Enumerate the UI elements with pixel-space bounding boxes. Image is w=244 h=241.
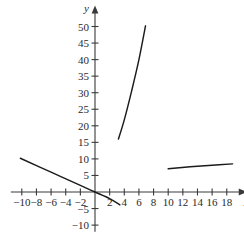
x-tick-label: 16 (207, 196, 219, 208)
y-tick-label: −5 (77, 203, 89, 215)
y-tick-label: 10 (78, 153, 90, 165)
y-tick-label: 25 (78, 103, 90, 115)
y-tick-label: 50 (78, 21, 90, 33)
y-tick-label: 30 (78, 87, 90, 99)
curve-steep-middle-branch (118, 26, 145, 139)
y-tick-label: 45 (78, 37, 90, 49)
graph-figure: −10−8−6−4−224681012141618 −10−5510152025… (0, 0, 244, 241)
x-tick-label: −4 (60, 196, 72, 208)
y-axis-arrow-icon (92, 6, 99, 14)
x-tick-label: 18 (221, 196, 233, 208)
y-tick-label: −10 (72, 219, 90, 231)
x-tick-label: 12 (177, 196, 188, 208)
y-tick-label: 15 (78, 136, 90, 148)
cartesian-plot: −10−8−6−4−224681012141618 −10−5510152025… (0, 0, 244, 241)
x-tick-group: −10−8−6−4−224681012141618 (13, 189, 233, 209)
x-tick-label: −6 (45, 196, 57, 208)
x-tick-label: 14 (192, 196, 204, 208)
curve-right-branch (168, 164, 232, 169)
x-tick-label: −8 (31, 196, 43, 208)
y-tick-label: 40 (78, 54, 90, 66)
x-tick-label: −10 (13, 196, 31, 208)
y-axis-label: y (83, 2, 89, 14)
x-tick-label: 10 (163, 196, 175, 208)
x-tick-label: 4 (122, 196, 128, 208)
x-tick-label: 6 (136, 196, 142, 208)
y-tick-label: 5 (84, 169, 90, 181)
y-tick-label: 35 (78, 70, 90, 82)
curve-group (20, 26, 232, 205)
x-axis-arrow-icon (239, 189, 244, 196)
x-axis-label: x (243, 196, 244, 208)
y-tick-label: 20 (78, 120, 90, 132)
x-tick-label: 8 (151, 196, 157, 208)
